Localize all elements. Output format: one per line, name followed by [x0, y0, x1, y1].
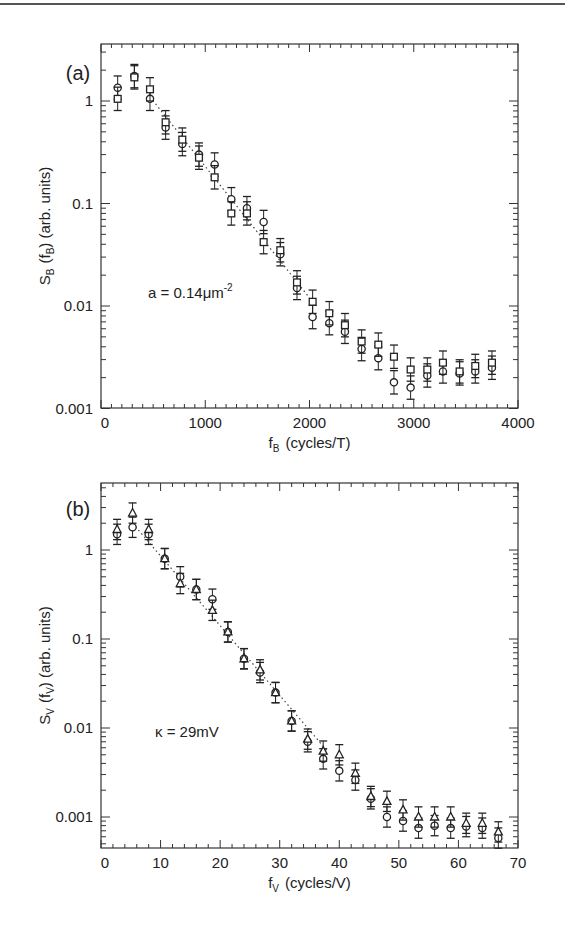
triangle-marker — [383, 797, 391, 805]
y-tick-label: 0.1 — [72, 195, 93, 212]
square-marker — [294, 279, 301, 286]
circle-marker — [390, 379, 397, 386]
square-marker — [179, 136, 186, 143]
y-axis-label: SV(fV) (arb. units) — [36, 606, 56, 724]
triangle-marker — [304, 735, 312, 743]
x-tick-label: 30 — [271, 854, 288, 871]
x-tick-label: 0 — [101, 414, 109, 431]
x-tick-label: 60 — [450, 854, 467, 871]
square-marker — [424, 366, 431, 373]
square-marker — [228, 210, 235, 217]
y-tick-label: 0.001 — [55, 400, 93, 417]
x-tick-label: 4000 — [501, 414, 534, 431]
square-marker — [472, 363, 479, 370]
triangle-marker — [335, 750, 343, 758]
y-label-sub: V — [45, 708, 56, 715]
square-marker — [309, 298, 316, 305]
square-marker — [244, 210, 251, 217]
parameter-annotation: a = 0.14μm-2 — [148, 282, 233, 301]
parameter-annotation: κ = 29mV — [155, 723, 219, 740]
circle-marker — [407, 384, 414, 391]
square-marker — [162, 119, 169, 126]
x-label-rest: (cycles/T) — [285, 434, 350, 451]
panel-label: (b) — [66, 498, 90, 520]
triangle-marker — [256, 665, 264, 673]
series-circles — [114, 64, 496, 399]
x-tick-label: 20 — [212, 854, 229, 871]
circle-marker — [336, 767, 343, 774]
square-marker — [440, 359, 447, 366]
x-tick-label: 3000 — [397, 414, 430, 431]
square-marker — [375, 341, 382, 348]
square-marker — [211, 174, 218, 181]
x-axis-label: fV(cycles/V) — [268, 874, 351, 894]
x-axis-label: fB(cycles/T) — [269, 434, 351, 454]
panel-label: (a) — [66, 62, 90, 84]
circle-marker — [129, 524, 136, 531]
y-label-rest: ) (arb. units) — [36, 606, 53, 687]
square-marker — [131, 74, 138, 81]
square-marker — [391, 353, 398, 360]
x-label-sub: B — [273, 443, 280, 454]
series-squares — [114, 66, 496, 383]
square-marker — [358, 338, 365, 345]
triangle-marker — [447, 813, 455, 821]
x-label-sub: V — [272, 883, 279, 894]
x-tick-label: 10 — [152, 854, 169, 871]
x-label-rest: (cycles/V) — [285, 874, 351, 891]
x-tick-label: 0 — [101, 854, 109, 871]
triangle-marker — [113, 525, 121, 533]
square-marker — [277, 247, 284, 254]
y-label-main: S — [36, 715, 53, 725]
y-tick-label: 1 — [85, 541, 93, 558]
triangle-marker — [462, 819, 470, 827]
y-tick-label: 0.01 — [64, 719, 93, 736]
y-axis-label: SB(fB) (arb. units) — [36, 167, 56, 285]
x-tick-label: 2000 — [293, 414, 326, 431]
square-marker — [196, 154, 203, 161]
annotation-superscript: -2 — [224, 282, 233, 293]
x-tick-label: 1000 — [189, 414, 222, 431]
y-tick-label: 0.01 — [64, 297, 93, 314]
triangle-marker — [415, 813, 423, 821]
square-marker — [114, 95, 121, 102]
y-tick-label: 0.1 — [72, 630, 93, 647]
square-marker — [342, 322, 349, 329]
circle-marker — [260, 218, 267, 225]
triangle-marker — [145, 525, 153, 533]
triangle-marker — [399, 805, 407, 813]
series-circles — [113, 517, 502, 848]
circle-marker — [309, 313, 316, 320]
series-triangles — [113, 503, 502, 842]
x-tick-label: 50 — [391, 854, 408, 871]
circle-marker — [383, 813, 390, 820]
square-marker — [260, 239, 267, 246]
triangle-marker — [129, 509, 137, 517]
x-tick-label: 70 — [510, 854, 527, 871]
y-label-rest: ) (arb. units) — [36, 167, 53, 248]
y-label-main: S — [36, 275, 53, 285]
square-marker — [326, 310, 333, 317]
square-marker — [456, 368, 463, 375]
chart-panel-b: 0102030405060700.0010.010.11(b)κ = 29mVf… — [36, 483, 526, 894]
y-tick-label: 0.001 — [55, 808, 93, 825]
square-marker — [489, 359, 496, 366]
x-tick-label: 40 — [331, 854, 348, 871]
y-label-sub: B — [45, 268, 56, 275]
triangle-marker — [478, 819, 486, 827]
chart-panel-a: 010002000300040000.0010.010.11(a)a = 0.1… — [36, 44, 535, 454]
plot-frame — [101, 44, 518, 408]
triangle-marker — [176, 579, 184, 587]
triangle-marker — [431, 813, 439, 821]
square-marker — [407, 366, 414, 373]
y-tick-label: 1 — [85, 92, 93, 109]
plot-frame — [101, 483, 518, 848]
figure: 010002000300040000.0010.010.11(a)a = 0.1… — [0, 0, 565, 940]
square-marker — [147, 86, 154, 93]
